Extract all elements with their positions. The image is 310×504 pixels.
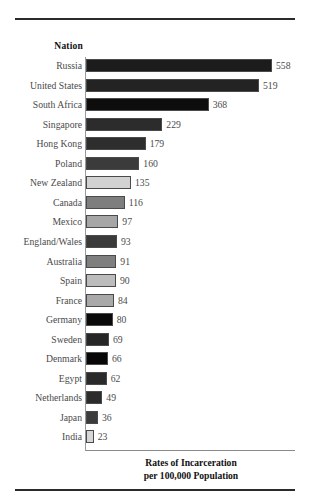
bar-category-label: France: [0, 292, 82, 309]
bar: [86, 430, 94, 443]
bar: [86, 294, 114, 307]
bar-category-label: England/Wales: [0, 233, 82, 250]
chart-row: Mexico97: [0, 213, 310, 230]
bar: [86, 411, 98, 424]
bar: [86, 137, 146, 150]
chart-row: Spain90: [0, 272, 310, 289]
bar: [86, 196, 125, 209]
bar-category-label: India: [0, 428, 82, 445]
bar: [86, 118, 162, 131]
bar-value-label: 84: [118, 292, 128, 309]
bar-value-label: 519: [263, 77, 278, 94]
bar: [86, 313, 113, 326]
bar-value-label: 36: [102, 409, 112, 426]
chart-row: Australia91: [0, 253, 310, 270]
bar: [86, 176, 131, 189]
bar: [86, 274, 116, 287]
chart-row: New Zealand135: [0, 174, 310, 191]
bar: [86, 255, 116, 268]
bar: [86, 59, 272, 72]
bar-category-label: Japan: [0, 409, 82, 426]
bar-value-label: 23: [98, 428, 108, 445]
bar-category-label: Russia: [0, 57, 82, 74]
chart-row: Netherlands49: [0, 389, 310, 406]
bar-value-label: 93: [121, 233, 131, 250]
bar-category-label: Egypt: [0, 370, 82, 387]
chart-row: France84: [0, 292, 310, 309]
chart-row: India23: [0, 428, 310, 445]
bar: [86, 372, 107, 385]
bar-value-label: 160: [143, 155, 158, 172]
bar: [86, 333, 109, 346]
bar-value-label: 179: [150, 135, 165, 152]
bar-category-label: Australia: [0, 253, 82, 270]
bar-category-label: South Africa: [0, 96, 82, 113]
chart-row: Canada116: [0, 194, 310, 211]
bar-category-label: United States: [0, 77, 82, 94]
bar: [86, 79, 259, 92]
bar-category-label: Spain: [0, 272, 82, 289]
bar: [86, 352, 108, 365]
bar: [86, 235, 117, 248]
bar-value-label: 69: [113, 331, 123, 348]
bottom-divider-rule: [15, 489, 295, 491]
bar-category-label: Netherlands: [0, 389, 82, 406]
chart-row: Poland160: [0, 155, 310, 172]
bar: [86, 157, 139, 170]
chart-row: Germany80: [0, 311, 310, 328]
chart-row: Egypt62: [0, 370, 310, 387]
incarceration-rate-figure: Nation Russia558United States519South Af…: [0, 0, 310, 504]
bar-category-label: Denmark: [0, 350, 82, 367]
bar-value-label: 80: [117, 311, 127, 328]
chart-row: Hong Kong179: [0, 135, 310, 152]
bar-value-label: 97: [122, 213, 132, 230]
caption-line-1: Rates of Incarceration: [86, 456, 296, 469]
bar-value-label: 116: [129, 194, 143, 211]
bar-value-label: 558: [276, 57, 291, 74]
bar-value-label: 135: [135, 174, 150, 191]
bar-value-label: 368: [213, 96, 228, 113]
bar-value-label: 90: [120, 272, 130, 289]
chart-row: Singapore229: [0, 116, 310, 133]
caption-line-2: per 100,000 Population: [86, 469, 296, 482]
bar-category-label: Poland: [0, 155, 82, 172]
chart-row: United States519: [0, 77, 310, 94]
chart-bottom-axis: [86, 450, 295, 451]
bar-value-label: 91: [120, 253, 130, 270]
chart-row: Russia558: [0, 57, 310, 74]
bar: [86, 98, 209, 111]
chart-row: Japan36: [0, 409, 310, 426]
bar-value-label: 66: [112, 350, 122, 367]
bar: [86, 391, 102, 404]
bar-category-label: Canada: [0, 194, 82, 211]
bar-value-label: 229: [166, 116, 181, 133]
chart-row: South Africa368: [0, 96, 310, 113]
bar-category-label: Singapore: [0, 116, 82, 133]
bar-chart-plot: Russia558United States519South Africa368…: [0, 0, 310, 504]
bar: [86, 215, 118, 228]
bar-category-label: Germany: [0, 311, 82, 328]
bar-category-label: Hong Kong: [0, 135, 82, 152]
chart-caption: Rates of Incarceration per 100,000 Popul…: [86, 456, 296, 482]
chart-row: Sweden69: [0, 331, 310, 348]
bar-category-label: Sweden: [0, 331, 82, 348]
bar-value-label: 49: [106, 389, 116, 406]
bar-category-label: Mexico: [0, 213, 82, 230]
bar-category-label: New Zealand: [0, 174, 82, 191]
chart-row: Denmark66: [0, 350, 310, 367]
bar-value-label: 62: [111, 370, 121, 387]
chart-row: England/Wales93: [0, 233, 310, 250]
